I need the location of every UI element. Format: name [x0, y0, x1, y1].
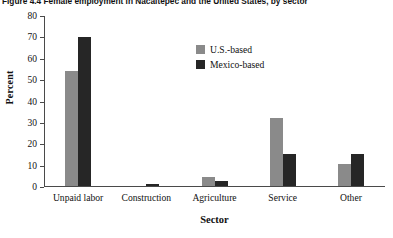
legend-swatch-icon	[196, 60, 205, 69]
bar	[215, 181, 228, 185]
bar-group	[44, 16, 112, 186]
legend-swatch-icon	[196, 45, 205, 54]
y-tick-label: 80	[28, 11, 38, 21]
y-tick-mark	[40, 187, 45, 188]
figure-container: Figure 4.4 Female employment in Nacaltep…	[0, 0, 393, 238]
bar	[338, 164, 351, 185]
y-tick-label: 0	[32, 182, 37, 192]
bar-group	[317, 16, 385, 186]
legend-label: Mexico-based	[210, 59, 264, 70]
bar	[78, 37, 91, 185]
y-tick-label: 30	[28, 118, 38, 128]
x-axis-line	[44, 186, 385, 187]
y-tick-label: 50	[28, 75, 38, 85]
x-tick-label: Other	[317, 192, 385, 203]
x-tick-label: Agriculture	[180, 192, 248, 203]
x-tick-label: Construction	[112, 192, 180, 203]
bar-groups	[44, 16, 385, 186]
y-tick-label: 70	[28, 32, 38, 42]
legend-item: U.S.-based	[196, 44, 264, 55]
x-tick-label: Unpaid labor	[44, 192, 112, 203]
bar	[270, 118, 283, 186]
y-tick-label: 40	[28, 97, 38, 107]
legend-label: U.S.-based	[210, 44, 252, 55]
bar-group	[249, 16, 317, 186]
x-axis-tick-labels: Unpaid laborConstructionAgricultureServi…	[44, 192, 385, 203]
y-axis-title: Percent	[4, 58, 15, 118]
y-tick-label: 60	[28, 54, 38, 64]
bar-group	[112, 16, 180, 186]
x-tick-label: Service	[249, 192, 317, 203]
bar	[283, 154, 296, 186]
x-axis-title: Sector	[44, 214, 385, 225]
bar	[202, 177, 215, 185]
legend: U.S.-basedMexico-based	[196, 44, 264, 74]
plot-area: 01020304050607080	[44, 16, 385, 187]
figure-title: Figure 4.4 Female employment in Nacaltep…	[2, 0, 393, 6]
legend-item: Mexico-based	[196, 59, 264, 70]
bar	[65, 71, 78, 185]
bar	[146, 184, 159, 186]
bar-group	[180, 16, 248, 186]
y-tick-label: 20	[28, 139, 38, 149]
y-tick-label: 10	[28, 161, 38, 171]
bar	[351, 154, 364, 186]
